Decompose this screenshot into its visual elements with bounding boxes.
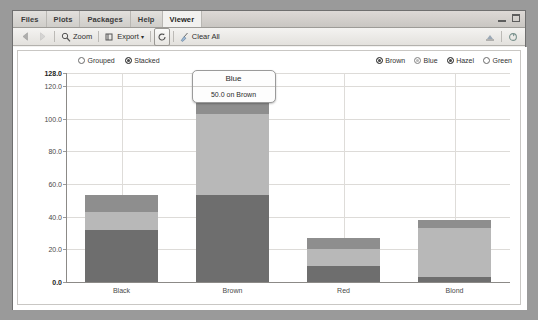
bar-segment-blue[interactable] <box>196 114 269 196</box>
publish-button[interactable] <box>482 30 498 44</box>
tab-label: Packages <box>87 15 122 24</box>
export-button[interactable]: Export ▾ <box>102 30 147 44</box>
refresh-viewer-button[interactable] <box>505 30 521 44</box>
tab-plots[interactable]: Plots <box>47 11 81 27</box>
tab-files[interactable]: Files <box>13 11 47 27</box>
export-label: Export <box>117 32 139 41</box>
magnifier-icon <box>61 32 71 42</box>
toolbar-divider <box>501 31 502 42</box>
bar-segment-hazel[interactable] <box>307 238 380 249</box>
bar-segment-brown[interactable] <box>307 266 380 282</box>
tab-packages[interactable]: Packages <box>80 11 130 27</box>
bar-segment-blue[interactable] <box>85 212 158 230</box>
publish-icon <box>485 32 495 42</box>
tab-label: Plots <box>54 15 73 24</box>
window-controls <box>497 14 521 23</box>
tab-label: Viewer <box>170 15 195 24</box>
refresh-viewer-icon <box>508 32 518 42</box>
zoom-label: Zoom <box>73 32 92 41</box>
forward-button[interactable] <box>34 30 51 44</box>
tab-label: Help <box>138 15 155 24</box>
plot-tooltip: Blue 50.0 on Brown <box>192 70 276 103</box>
toolbar-divider <box>173 31 174 42</box>
forward-arrow-icon <box>37 31 48 42</box>
clear-all-button[interactable]: Clear All <box>177 30 223 44</box>
plots-toolbar: Zoom Export ▾ Clear All <box>13 28 525 46</box>
tab-help[interactable]: Help <box>131 11 163 27</box>
export-caret-icon: ▾ <box>141 33 144 40</box>
tabstrip-filler <box>202 11 525 27</box>
bar-segment-blue[interactable] <box>418 228 491 277</box>
bar-segment-brown[interactable] <box>85 230 158 282</box>
back-button[interactable] <box>17 30 34 44</box>
toolbar-divider <box>150 31 151 42</box>
plots-pane: FilesPlotsPackagesHelpViewer <box>12 10 526 310</box>
tab-list: FilesPlotsPackagesHelpViewer <box>13 11 525 27</box>
minimize-icon[interactable] <box>497 14 507 23</box>
screenshot-root: FilesPlotsPackagesHelpViewer <box>0 0 538 320</box>
clear-all-label: Clear All <box>192 32 220 41</box>
bar-stack[interactable] <box>418 220 491 282</box>
bar-segment-blue[interactable] <box>307 249 380 265</box>
toolbar-divider <box>54 31 55 42</box>
tab-label: Files <box>21 15 39 24</box>
broom-icon <box>180 32 190 42</box>
tab-viewer[interactable]: Viewer <box>163 11 203 27</box>
bar-segment-brown[interactable] <box>196 195 269 282</box>
bar-segment-hazel[interactable] <box>418 220 491 228</box>
bar-segment-brown[interactable] <box>418 277 491 282</box>
zoom-button[interactable]: Zoom <box>58 30 95 44</box>
maximize-icon[interactable] <box>511 14 521 23</box>
bar-stack[interactable] <box>307 238 380 282</box>
refresh-button[interactable] <box>154 28 170 46</box>
plot-canvas[interactable]: GroupedStacked BrownBlueHazelGreen 128.0… <box>13 47 527 310</box>
plot-frame: GroupedStacked BrownBlueHazelGreen 128.0… <box>17 50 521 305</box>
bar-stack[interactable] <box>85 195 158 282</box>
export-icon <box>105 32 115 42</box>
tooltip-body: 50.0 on Brown <box>193 87 275 102</box>
bar-stack[interactable] <box>196 73 269 282</box>
back-arrow-icon <box>20 31 31 42</box>
bar-segment-hazel[interactable] <box>85 195 158 211</box>
tooltip-title: Blue <box>193 71 275 87</box>
toolbar-divider <box>98 31 99 42</box>
refresh-icon <box>157 32 167 42</box>
pane-tabstrip: FilesPlotsPackagesHelpViewer <box>13 11 525 28</box>
